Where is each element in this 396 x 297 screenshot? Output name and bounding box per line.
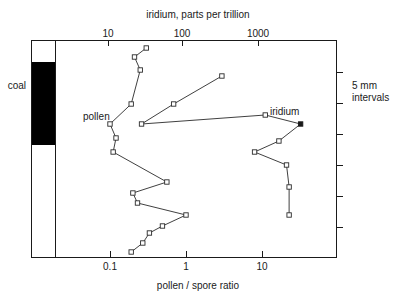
data-point-pollen-11 (160, 224, 164, 228)
data-point-iridium-7 (284, 163, 288, 167)
data-point-iridium-4 (298, 122, 302, 126)
data-point-pollen-13 (141, 241, 145, 245)
plot-frame (56, 41, 337, 258)
data-point-iridium-5 (277, 139, 281, 143)
data-point-iridium-2 (139, 122, 143, 126)
interval-label-line2: intervals (352, 92, 389, 103)
bottom-tick-label-10: 10 (256, 261, 268, 272)
series-pollen (108, 46, 188, 254)
bottom-tick-label-0-1: 0.1 (103, 261, 117, 272)
lithology-column (32, 41, 56, 258)
top-tick-label-1000: 1000 (247, 28, 270, 39)
top-tick-label-10: 10 (102, 28, 114, 39)
data-point-pollen-1 (132, 55, 136, 59)
series-line-iridium (142, 76, 301, 215)
iridium-series-label: iridium (270, 106, 299, 117)
data-point-pollen-4 (108, 122, 112, 126)
right-axis-ticks (337, 72, 344, 227)
data-point-pollen-10 (184, 213, 188, 217)
top-tick-label-100: 100 (174, 28, 191, 39)
data-point-pollen-7 (165, 180, 169, 184)
data-point-pollen-0 (144, 46, 148, 50)
data-point-iridium-0 (220, 74, 224, 78)
series-line-pollen (110, 48, 186, 252)
top-axis-title: iridium, parts per trillion (146, 9, 249, 20)
data-point-pollen-6 (111, 150, 115, 154)
data-point-pollen-3 (129, 102, 133, 106)
bottom-axis-title: pollen / spore ratio (157, 280, 240, 291)
data-point-pollen-5 (114, 136, 118, 140)
data-point-pollen-2 (138, 68, 142, 72)
data-point-pollen-8 (131, 191, 135, 195)
data-point-pollen-9 (135, 201, 139, 205)
pollen-series-label: pollen (83, 111, 110, 122)
data-point-iridium-3 (263, 113, 267, 117)
stratigraphic-chart: iridium, parts per trillion 10 100 1000 … (0, 0, 396, 297)
chart-page: iridium, parts per trillion 10 100 1000 … (0, 0, 396, 297)
data-point-iridium-6 (252, 150, 256, 154)
series-iridium (139, 74, 302, 217)
bottom-tick-label-1: 1 (183, 261, 189, 272)
data-point-iridium-8 (287, 185, 291, 189)
series-layer (108, 46, 303, 254)
interval-label-line1: 5 mm (352, 80, 377, 91)
data-point-iridium-9 (287, 213, 291, 217)
coal-label: coal (8, 80, 26, 91)
data-point-iridium-1 (171, 102, 175, 106)
coal-bed-fill (32, 62, 55, 145)
data-point-pollen-14 (129, 250, 133, 254)
data-point-pollen-12 (147, 231, 151, 235)
